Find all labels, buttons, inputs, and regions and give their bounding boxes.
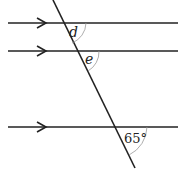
angle-label-d: d	[69, 24, 78, 40]
transversal-line	[53, 0, 135, 168]
angle-label-65: 65°	[124, 131, 147, 146]
angle-label-e: e	[85, 51, 93, 67]
parallel-lines-diagram: d e 65°	[0, 0, 181, 175]
